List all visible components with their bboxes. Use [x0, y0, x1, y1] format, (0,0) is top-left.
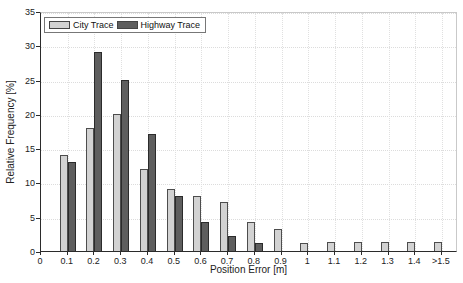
bar-chart-figure: City Trace Highway Trace Relative Freque… — [0, 0, 463, 283]
h-gridline-25 — [41, 82, 456, 83]
x-tick-mark->1.5 — [441, 252, 442, 255]
x-tick-label-0.8: 0.8 — [248, 256, 261, 266]
legend-swatch-city-trace — [49, 21, 70, 29]
x-tick-label-0.4: 0.4 — [141, 256, 154, 266]
x-tick-label-0.1: 0.1 — [60, 256, 73, 266]
h-gridline-20 — [41, 116, 456, 117]
v-gridline-1.1 — [335, 13, 336, 251]
x-tick-mark-0.5 — [174, 252, 175, 255]
x-tick-label-1.2: 1.2 — [355, 256, 368, 266]
x-tick-label-0.3: 0.3 — [114, 256, 127, 266]
bar-city-1.1 — [327, 242, 335, 251]
v-gridline-0.8 — [255, 13, 256, 251]
x-tick-mark-1 — [307, 252, 308, 255]
y-tick-mark-5 — [36, 218, 40, 219]
y-tick-label-30: 30 — [0, 41, 35, 51]
h-gridline-15 — [41, 150, 456, 151]
x-tick-mark-1.3 — [388, 252, 389, 255]
y-tick-mark-20 — [36, 115, 40, 116]
plot-area: City Trace Highway Trace — [40, 12, 457, 252]
v-gridline-1.4 — [415, 13, 416, 251]
v-gridline-0.9 — [282, 13, 283, 251]
bar-city-0.8 — [247, 222, 255, 251]
x-tick-mark-0.7 — [227, 252, 228, 255]
bar-city-0.2 — [86, 128, 94, 251]
bar-city->1.5 — [434, 242, 442, 251]
bar-city-0.1 — [60, 155, 68, 251]
legend-label-highway-trace: Highway Trace — [141, 20, 201, 30]
bar-city-0.6 — [193, 196, 201, 251]
h-gridline-35 — [41, 13, 456, 14]
y-tick-label-10: 10 — [0, 178, 35, 188]
x-tick-mark-0 — [40, 252, 41, 255]
y-tick-label-0: 0 — [0, 247, 35, 257]
h-gridline-30 — [41, 47, 456, 48]
x-tick-mark-0.3 — [120, 252, 121, 255]
y-tick-label-5: 5 — [0, 213, 35, 223]
y-tick-mark-15 — [36, 149, 40, 150]
bar-highway-0.5 — [175, 196, 183, 251]
x-tick-mark-0.8 — [254, 252, 255, 255]
x-tick-label-0.7: 0.7 — [221, 256, 234, 266]
x-tick-label-0.6: 0.6 — [194, 256, 207, 266]
bar-highway-0.2 — [94, 52, 102, 251]
x-tick-label->1.5: >1.5 — [432, 256, 450, 266]
y-tick-label-20: 20 — [0, 110, 35, 120]
x-tick-label-0: 0 — [37, 256, 42, 266]
v-gridline-1.3 — [389, 13, 390, 251]
x-tick-label-1.1: 1.1 — [328, 256, 341, 266]
chart-legend: City Trace Highway Trace — [44, 17, 206, 33]
y-tick-mark-25 — [36, 81, 40, 82]
x-tick-mark-0.9 — [281, 252, 282, 255]
v-gridline->1.5 — [442, 13, 443, 251]
bar-city-0.4 — [140, 169, 148, 251]
x-tick-mark-1.2 — [361, 252, 362, 255]
x-tick-mark-0.6 — [200, 252, 201, 255]
x-tick-label-0.9: 0.9 — [274, 256, 287, 266]
bar-city-1.4 — [407, 242, 415, 251]
y-tick-label-15: 15 — [0, 144, 35, 154]
bar-highway-0.6 — [201, 222, 209, 251]
y-axis-label: Relative Frequency [%] — [5, 80, 16, 183]
x-tick-mark-1.1 — [334, 252, 335, 255]
legend-label-city-trace: City Trace — [73, 20, 114, 30]
v-gridline-0.7 — [228, 13, 229, 251]
y-tick-mark-35 — [36, 12, 40, 13]
bar-highway-0.7 — [228, 236, 236, 251]
v-gridline-1 — [308, 13, 309, 251]
y-tick-label-25: 25 — [0, 76, 35, 86]
y-tick-mark-30 — [36, 46, 40, 47]
x-tick-mark-1.4 — [414, 252, 415, 255]
bar-city-1.2 — [354, 242, 362, 251]
x-tick-label-0.2: 0.2 — [87, 256, 100, 266]
x-tick-label-1.4: 1.4 — [408, 256, 421, 266]
x-tick-mark-0.4 — [147, 252, 148, 255]
bar-highway-0.3 — [121, 80, 129, 251]
x-tick-label-1: 1 — [305, 256, 310, 266]
y-tick-mark-10 — [36, 183, 40, 184]
legend-swatch-highway-trace — [117, 21, 138, 29]
x-tick-label-1.3: 1.3 — [381, 256, 394, 266]
v-gridline-0.6 — [201, 13, 202, 251]
bar-city-0.3 — [113, 114, 121, 251]
x-tick-label-0.5: 0.5 — [167, 256, 180, 266]
y-tick-label-35: 35 — [0, 7, 35, 17]
x-tick-mark-0.1 — [67, 252, 68, 255]
h-gridline-10 — [41, 184, 456, 185]
h-gridline-5 — [41, 219, 456, 220]
bar-highway-0.8 — [255, 243, 263, 251]
bar-city-0.5 — [167, 189, 175, 251]
x-tick-mark-0.2 — [93, 252, 94, 255]
bar-city-0.9 — [274, 229, 282, 251]
bar-highway-0.1 — [68, 162, 76, 251]
bar-highway-0.4 — [148, 134, 156, 251]
bar-city-0.7 — [220, 202, 228, 251]
bar-city-1 — [300, 243, 308, 251]
bar-city-1.3 — [381, 242, 389, 251]
v-gridline-1.2 — [362, 13, 363, 251]
